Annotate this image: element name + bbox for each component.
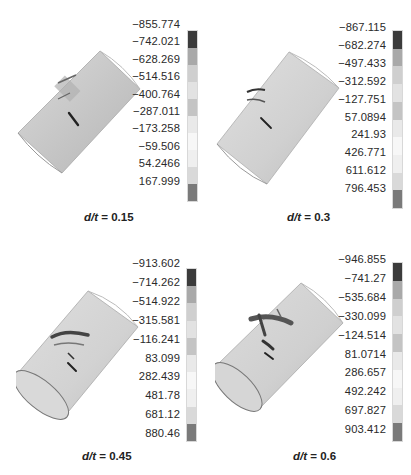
legend-value: 426.771 (338, 144, 386, 162)
legend-band (393, 334, 402, 352)
panel-caption: d/t = 0.6 (293, 450, 336, 462)
caption-variable: d/t (84, 211, 98, 223)
legend-value: 282.439 (132, 367, 180, 386)
legend-value: −116.241 (132, 330, 180, 349)
legend-value: 492.242 (338, 382, 386, 401)
legend-band (187, 286, 196, 303)
legend-band (393, 173, 402, 191)
caption-variable: d/t (287, 211, 301, 223)
legend-band (187, 321, 196, 338)
caption-value: 0.3 (314, 211, 330, 223)
legend-band (393, 137, 402, 155)
legend-band (393, 120, 402, 138)
panel-caption: d/t = 0.45 (82, 450, 132, 462)
legend-band (393, 263, 402, 281)
panel-caption: d/t = 0.3 (287, 211, 330, 223)
legend-value: 81.0714 (338, 345, 386, 364)
legend-band (393, 405, 402, 423)
color-legend-bar (186, 268, 197, 442)
legend-value: −59.506 (132, 138, 180, 155)
legend-band (393, 49, 402, 67)
legend-band (187, 355, 196, 372)
legend-value: 697.827 (338, 401, 386, 420)
panel-caption: d/t = 0.15 (84, 211, 134, 223)
legend-value: −287.011 (132, 103, 180, 120)
legend-band (188, 31, 197, 48)
caption-equals: = (96, 450, 109, 462)
legend-value: −628.269 (132, 51, 180, 68)
legend-band (188, 184, 197, 201)
legend-value: −315.581 (132, 311, 180, 330)
legend-band (187, 372, 196, 389)
dented-pipe-contour-plot (14, 45, 144, 180)
legend-band (393, 66, 402, 84)
legend-value: −514.516 (132, 68, 180, 85)
legend-value: −867.115 (338, 19, 386, 37)
legend-value: 681.12 (132, 405, 180, 424)
legend-band (393, 31, 402, 49)
legend-band (393, 190, 402, 208)
legend-band (188, 82, 197, 99)
legend-value: 83.099 (132, 349, 180, 368)
legend-band (188, 133, 197, 150)
legend-value: −173.258 (132, 120, 180, 137)
legend-value: 54.2466 (132, 155, 180, 172)
legend-band (393, 102, 402, 120)
caption-equals: = (307, 450, 320, 462)
legend-band (188, 99, 197, 116)
legend-band (393, 316, 402, 334)
legend-value: 880.46 (132, 424, 180, 443)
legend-value: −946.855 (338, 250, 386, 269)
legend-band (393, 299, 402, 317)
legend-value: −514.922 (132, 292, 180, 311)
legend-value: 167.999 (132, 173, 180, 190)
legend-band (393, 423, 402, 441)
color-legend-bar (392, 30, 403, 209)
legend-value: 903.412 (338, 420, 386, 439)
legend-value: −913.602 (132, 254, 180, 273)
panel-dt-0.15: −855.774 −742.021 −628.269 −514.516 −400… (0, 0, 205, 237)
legend-band (393, 388, 402, 406)
legend-band (393, 352, 402, 370)
dented-pipe-contour-plot (16, 287, 146, 427)
legend-labels: −855.774 −742.021 −628.269 −514.516 −400… (132, 16, 180, 190)
legend-value: 481.78 (132, 386, 180, 405)
legend-value: −124.514 (338, 326, 386, 345)
legend-value: 57.0894 (338, 109, 386, 127)
panel-dt-0.6: −946.855 −741.27 −535.684 −330.099 −124.… (205, 237, 411, 475)
legend-band (393, 84, 402, 102)
legend-value: −714.262 (132, 273, 180, 292)
legend-value: −855.774 (132, 16, 180, 33)
legend-band (187, 389, 196, 406)
color-legend-bar (392, 262, 403, 442)
legend-value: −497.433 (338, 55, 386, 73)
legend-band (187, 269, 196, 286)
legend-value: −682.274 (338, 37, 386, 55)
legend-band (187, 407, 196, 424)
caption-value: 0.45 (109, 450, 131, 462)
color-legend-bar (187, 30, 198, 202)
dented-pipe-contour-plot (213, 48, 343, 188)
caption-variable: d/t (293, 450, 307, 462)
panel-dt-0.3: −867.115 −682.274 −497.433 −312.592 −127… (205, 0, 411, 237)
legend-labels: −913.602 −714.262 −514.922 −315.581 −116… (132, 254, 180, 443)
caption-equals: = (98, 211, 111, 223)
caption-value: 0.15 (111, 211, 133, 223)
legend-value: 241.93 (338, 126, 386, 144)
legend-value: −742.021 (132, 33, 180, 50)
legend-value: −127.751 (338, 91, 386, 109)
legend-band (187, 338, 196, 355)
caption-variable: d/t (82, 450, 96, 462)
caption-equals: = (301, 211, 314, 223)
panel-dt-0.45: −913.602 −714.262 −514.922 −315.581 −116… (0, 237, 205, 475)
legend-value: −535.684 (338, 288, 386, 307)
legend-band (188, 167, 197, 184)
legend-value: −741.27 (338, 269, 386, 288)
legend-value: −312.592 (338, 73, 386, 91)
legend-value: 286.657 (338, 363, 386, 382)
legend-band (393, 281, 402, 299)
legend-band (393, 370, 402, 388)
caption-value: 0.6 (320, 450, 336, 462)
legend-value: 796.453 (338, 180, 386, 198)
legend-band (187, 303, 196, 320)
